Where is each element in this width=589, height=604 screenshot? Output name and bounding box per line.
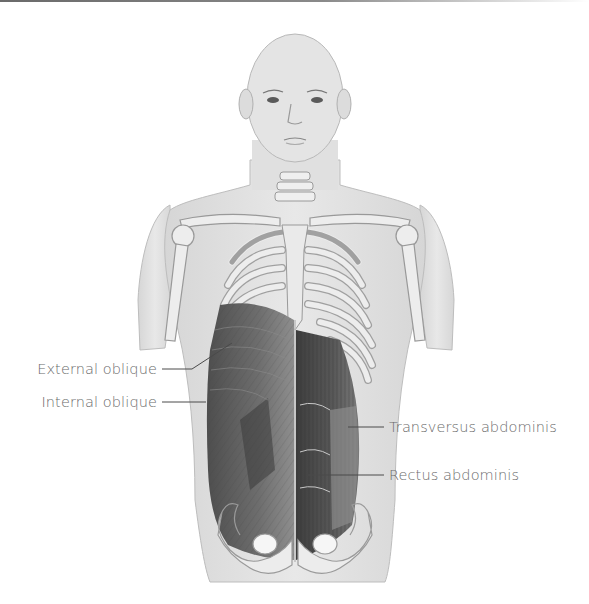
cervical-spine xyxy=(275,172,315,201)
label-external-oblique: External oblique xyxy=(37,361,157,377)
label-transversus-abdominis: Transversus abdominis xyxy=(389,419,557,435)
label-rectus-abdominis: Rectus abdominis xyxy=(389,467,519,483)
label-internal-oblique: Internal oblique xyxy=(41,394,157,410)
anatomy-illustration xyxy=(0,0,589,604)
